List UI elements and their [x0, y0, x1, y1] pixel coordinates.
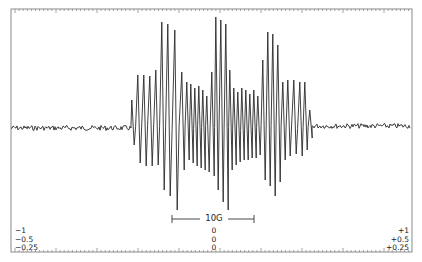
center-label-1: 0	[200, 226, 228, 235]
left-label-1: −1	[15, 226, 26, 235]
scale-bar-label: 10G	[200, 213, 228, 223]
spectrum-trace	[11, 17, 410, 210]
right-label-3: +0.25	[386, 243, 409, 252]
center-label-3: 0	[200, 243, 228, 252]
top-axis-ticks	[15, 9, 409, 13]
left-label-3: −0.25	[15, 243, 38, 252]
right-label-1: +1	[398, 226, 409, 235]
